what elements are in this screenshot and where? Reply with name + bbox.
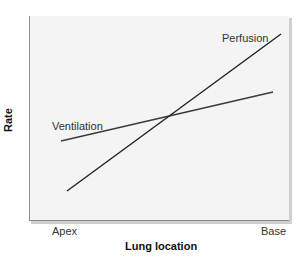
ventilation-label: Ventilation	[52, 120, 103, 132]
perfusion-label: Perfusion	[222, 32, 268, 44]
x-tick-apex: Apex	[52, 225, 77, 237]
perfusion-line	[67, 34, 281, 191]
x-axis-title: Lung location	[125, 240, 197, 252]
x-tick-base: Base	[261, 225, 286, 237]
ventilation-line	[61, 92, 273, 141]
y-axis-title: Rate	[2, 108, 14, 132]
